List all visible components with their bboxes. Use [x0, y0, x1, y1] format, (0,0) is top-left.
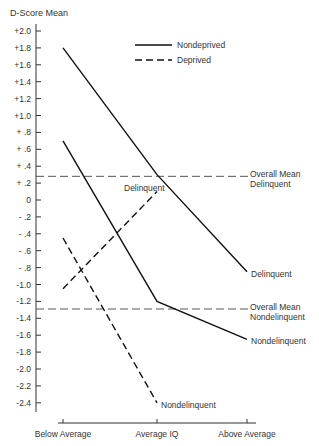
series-line [63, 238, 157, 403]
y-axis: +2.0+1.8+1.6+1.4+1.2+1.0+ .8+ .6+ .4+ .2… [14, 24, 41, 412]
d-score-line-chart: D-Score Mean +2.0+1.8+1.6+1.4+1.2+1.0+ .… [0, 0, 319, 446]
y-tick-label: + .4 [17, 161, 32, 171]
series-line [63, 141, 247, 340]
y-tick-label: +1.0 [14, 111, 31, 121]
legend-nondeprived-label: Nondeprived [177, 40, 225, 50]
x-tick-label: Average IQ [136, 429, 179, 439]
overall-mean-label: Overall Mean [250, 169, 301, 179]
legend: Nondeprived Deprived [135, 40, 225, 65]
x-axis: Below AverageAverage IQAbove Average [35, 419, 276, 439]
y-tick-label: -1.4 [16, 313, 31, 323]
y-tick-label: +1.4 [14, 77, 31, 87]
y-tick-label: +1.8 [14, 43, 31, 53]
overall-mean-label: Overall Mean [250, 302, 301, 312]
overall-mean-label: Delinquent [250, 179, 291, 189]
y-tick-label: +2.0 [14, 26, 31, 36]
series-end-label: Delinquent [251, 269, 292, 279]
y-tick-label: - .2 [19, 212, 32, 222]
reference-lines: Overall MeanDelinquentOverall MeanNondel… [36, 169, 305, 322]
y-tick-label: -2.4 [16, 398, 31, 408]
y-tick-label: +1.2 [14, 94, 31, 104]
series-end-label: Nondelinquent [161, 400, 216, 410]
data-series: DelinquentNondelinquentDelinquentNondeli… [63, 48, 306, 410]
y-tick-label: - .4 [19, 229, 32, 239]
y-tick-label: -1.8 [16, 347, 31, 357]
y-tick-label: +1.6 [14, 60, 31, 70]
y-tick-label: -1.6 [16, 330, 31, 340]
y-tick-label: + .2 [17, 178, 32, 188]
series-line [63, 48, 247, 272]
y-tick-label: -2.0 [16, 364, 31, 374]
series-line [63, 192, 157, 289]
y-tick-label: 0 [26, 195, 31, 205]
y-tick-label: + .8 [17, 127, 32, 137]
x-tick-label: Above Average [218, 429, 276, 439]
y-tick-label: - .6 [19, 246, 32, 256]
y-tick-label: -2.2 [16, 381, 31, 391]
legend-deprived-label: Deprived [177, 55, 211, 65]
series-end-label: Delinquent [124, 183, 165, 193]
series-end-label: Nondelinquent [251, 336, 306, 346]
y-tick-label: - .8 [19, 263, 32, 273]
y-tick-label: -1.2 [16, 296, 31, 306]
y-tick-label: + .6 [17, 144, 32, 154]
y-tick-label: -1.0 [16, 280, 31, 290]
y-axis-label: D-Score Mean [10, 8, 68, 18]
x-tick-label: Below Average [35, 429, 92, 439]
overall-mean-label: Nondelinquent [250, 312, 305, 322]
